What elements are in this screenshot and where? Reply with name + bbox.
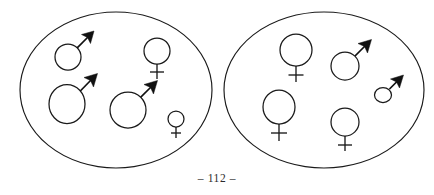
female-circle bbox=[144, 38, 170, 64]
left-male-small-top-symbol bbox=[55, 31, 94, 70]
gender-symbol-groups-figure bbox=[0, 0, 434, 195]
right-male-medium-top-symbol bbox=[331, 40, 372, 81]
female-circle bbox=[280, 34, 312, 66]
right-group-boundary bbox=[224, 12, 424, 168]
female-circle bbox=[168, 111, 184, 127]
right-group bbox=[224, 12, 424, 168]
right-female-large-top-symbol bbox=[280, 34, 312, 82]
left-group-boundary bbox=[20, 12, 212, 168]
male-circle bbox=[331, 52, 359, 80]
book-page: – 112 – bbox=[0, 0, 434, 195]
right-male-small-right-symbol bbox=[375, 75, 404, 103]
male-circle bbox=[375, 88, 392, 103]
left-group bbox=[20, 12, 212, 168]
female-circle bbox=[331, 108, 359, 136]
female-circle bbox=[263, 90, 295, 124]
right-female-medium-bottom-symbol bbox=[331, 108, 359, 151]
page-number: – 112 – bbox=[0, 172, 434, 184]
left-female-small-bottomright-symbol bbox=[168, 111, 184, 138]
male-circle bbox=[49, 85, 85, 124]
male-arrow-shaft bbox=[77, 36, 89, 48]
male-circle bbox=[110, 92, 146, 128]
left-male-large-center-symbol bbox=[110, 81, 158, 129]
male-arrow-shaft bbox=[80, 79, 92, 91]
left-female-large-topright-symbol bbox=[144, 38, 170, 79]
right-female-large-left-symbol bbox=[263, 90, 295, 141]
male-circle bbox=[55, 44, 81, 70]
left-male-large-left-symbol bbox=[49, 74, 98, 124]
